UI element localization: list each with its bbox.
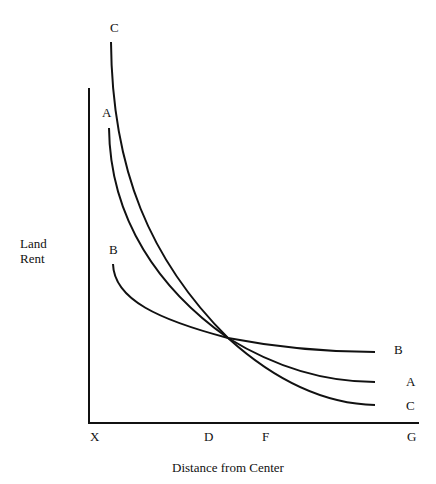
curve-b-end-label: B [394, 343, 403, 356]
curve-b-start-label: B [109, 243, 118, 256]
curve-b [113, 264, 375, 352]
y-axis-label: Land Rent [20, 236, 47, 266]
curve-c-end-label: C [406, 399, 415, 412]
x-axis-label: Distance from Center [172, 460, 284, 476]
tick-f-label: F [262, 430, 269, 443]
tick-x-label: X [90, 430, 99, 443]
curve-c-start-label: C [110, 21, 119, 34]
y-axis-label-line2: Rent [20, 251, 47, 266]
curve-a-end-label: A [406, 375, 415, 388]
bid-rent-diagram [0, 0, 436, 484]
y-axis-label-line1: Land [20, 236, 47, 251]
tick-g-label: G [407, 430, 416, 443]
curve-a [109, 128, 375, 382]
tick-d-label: D [204, 430, 213, 443]
curve-a-start-label: A [102, 106, 111, 119]
